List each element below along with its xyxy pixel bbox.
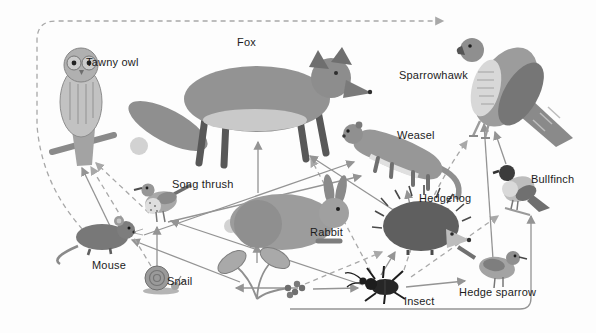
mouse-illustration (57, 216, 143, 264)
fox-label: Fox (237, 36, 256, 48)
fox-illustration (122, 47, 373, 165)
arrow-mouse-to-tawny-owl (82, 168, 110, 226)
arrow-bullfinch-to-sparrowhawk (495, 132, 506, 164)
bullfinch-label: Bullfinch (531, 173, 574, 185)
insect-illustration (345, 266, 405, 304)
insect-label: Insect (404, 295, 435, 307)
food-web-canvas (0, 0, 596, 333)
rabbit-label: Rabbit (310, 226, 343, 238)
sparrowhawk-label: Sparrowhawk (399, 69, 468, 81)
arrow-insect-to-hedge-sparrow (406, 281, 465, 287)
sparrowhawk-illustration (457, 36, 573, 147)
hedgehog-label: Hedgehog (419, 192, 471, 204)
food-web-figure: Tawny owl Fox Sparrowhawk Weasel Song th… (0, 0, 596, 333)
mouse-label: Mouse (92, 259, 126, 271)
arrow-hedge-sparrow-to-sparrowhawk (484, 124, 494, 274)
plant-illustration (214, 243, 305, 299)
snail-label: Snail (167, 275, 192, 287)
tawny-owl-label: Tawny owl (86, 56, 139, 68)
song-thrush-label: Song thrush (172, 178, 234, 190)
hedge-sparrow-label: Hedge sparrow (459, 286, 536, 298)
weasel-label: Weasel (397, 129, 435, 141)
arrow-plant-to-insect (313, 288, 358, 289)
